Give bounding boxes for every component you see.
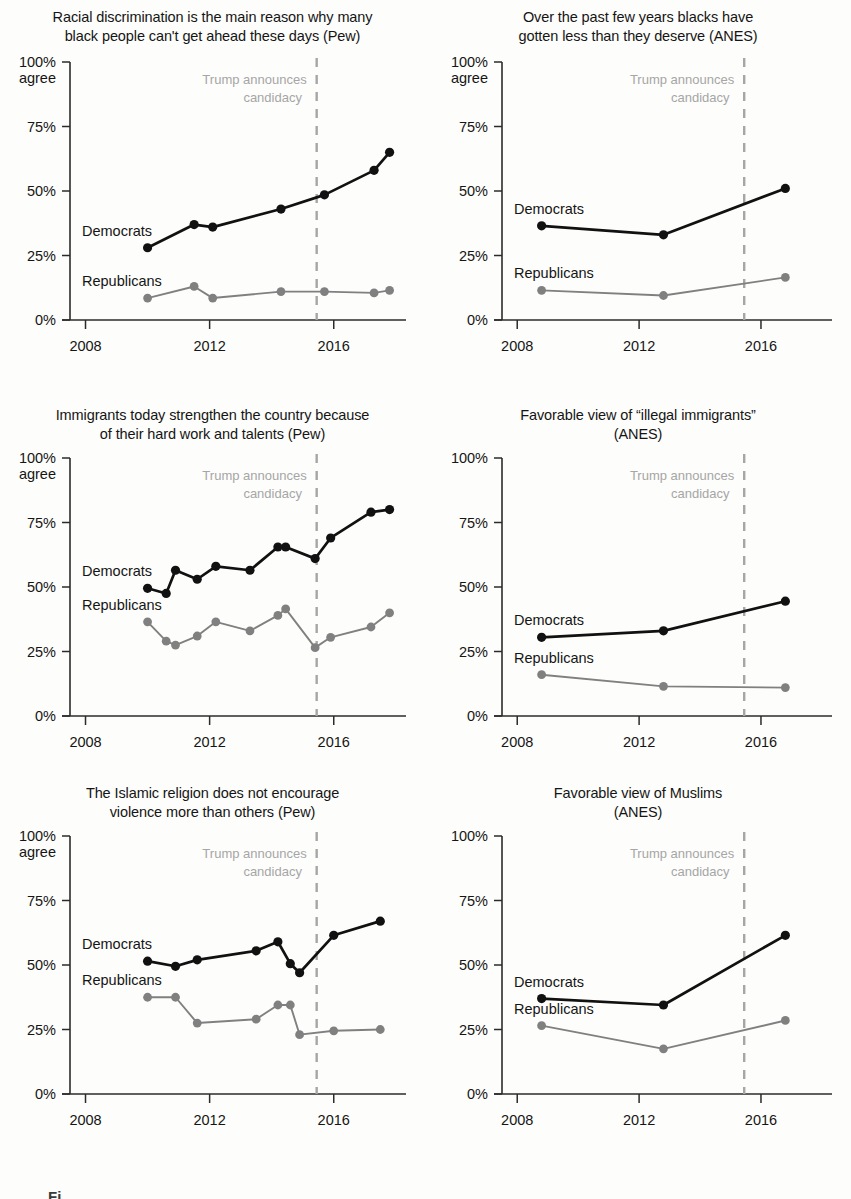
data-point (320, 287, 329, 296)
x-tick-label: 2012 (193, 1112, 225, 1128)
y-tick-label: 25% (459, 1022, 488, 1038)
data-point (329, 931, 338, 940)
data-point (171, 962, 180, 971)
annotation-line1: Trump announces (202, 846, 307, 861)
data-point (273, 937, 282, 946)
x-tick-label: 2016 (745, 338, 777, 354)
chart-plot: 100%75%50%25%0%agree200820122016Trump an… (0, 774, 425, 1193)
annotation-line2: candidacy (243, 90, 302, 105)
data-point (367, 623, 376, 632)
annotation-line1: Trump announces (630, 846, 735, 861)
data-point (659, 682, 668, 691)
data-point (246, 626, 255, 635)
legend-label-democrats: Democrats (82, 563, 152, 579)
y-tick-label: 100% (19, 828, 56, 844)
y-tick-label: 50% (27, 957, 56, 973)
x-tick-label: 2012 (623, 734, 655, 750)
y-tick-label: 100% (451, 828, 488, 844)
series-republicans (537, 670, 790, 692)
data-point (162, 589, 171, 598)
series-republicans (143, 605, 394, 653)
y-tick-label: 25% (459, 644, 488, 660)
data-point (286, 959, 295, 968)
data-point (366, 508, 375, 517)
panel-favorable-illegal-immigrants: Favorable view of “illegal immigrants”(A… (425, 396, 851, 774)
y-tick-label: 75% (27, 893, 56, 909)
series-democrats (143, 917, 385, 978)
series-democrats (143, 505, 394, 598)
annotation-line2: candidacy (671, 90, 730, 105)
x-tick-label: 2012 (193, 338, 225, 354)
legend-label-republicans: Republicans (82, 972, 162, 988)
x-tick-label: 2016 (318, 1112, 350, 1128)
data-point (193, 1019, 202, 1028)
data-point (190, 282, 199, 291)
data-point (311, 643, 320, 652)
panel-favorable-muslims: Favorable view of Muslims(ANES)100%75%50… (425, 774, 851, 1193)
data-point (311, 554, 320, 563)
legend-label-republicans: Republicans (82, 273, 162, 289)
data-point (245, 566, 254, 575)
data-point (781, 597, 790, 606)
data-point (143, 617, 152, 626)
legend-label-republicans: Republicans (514, 650, 594, 666)
data-point (326, 633, 335, 642)
y-tick-label: 0% (35, 312, 56, 328)
data-point (376, 1025, 385, 1034)
annotation-line2: candidacy (671, 864, 730, 879)
y-tick-label: 100% (451, 450, 488, 466)
data-point (273, 611, 282, 620)
data-point (781, 931, 790, 940)
chart-plot: 100%75%50%25%0%agree200820122016Trump an… (0, 396, 425, 774)
data-point (781, 273, 790, 282)
data-point (208, 294, 217, 303)
series-republicans (143, 282, 394, 302)
data-point (143, 243, 152, 252)
data-point (208, 223, 217, 232)
annotation-line1: Trump announces (630, 468, 735, 483)
data-point (659, 1000, 668, 1009)
y-tick-label: 0% (467, 312, 488, 328)
y-tick-label: 50% (27, 183, 56, 199)
x-tick-label: 2016 (745, 734, 777, 750)
data-point (281, 605, 290, 614)
data-point (273, 1001, 282, 1010)
panel-immigrants-strengthen: Immigrants today strengthen the country … (0, 396, 425, 774)
y-tick-label: 100% (19, 54, 56, 70)
y-tick-label: 75% (27, 515, 56, 531)
chart-plot: 100%75%50%25%0%200820122016Trump announc… (425, 774, 851, 1193)
data-point (326, 533, 335, 542)
data-point (143, 294, 152, 303)
x-tick-label: 2008 (501, 1112, 533, 1128)
y-axis-caption: agree (451, 70, 488, 86)
annotation-line2: candidacy (243, 864, 302, 879)
annotation-line2: candidacy (671, 486, 730, 501)
y-tick-label: 25% (459, 248, 488, 264)
data-point (537, 1021, 546, 1030)
annotation-line2: candidacy (243, 486, 302, 501)
data-point (277, 287, 286, 296)
data-point (252, 1015, 261, 1024)
data-point (193, 632, 202, 641)
y-tick-label: 100% (451, 54, 488, 70)
series-republicans (143, 993, 385, 1039)
legend-label-democrats: Democrats (82, 223, 152, 239)
figure-caption-stub: Fi (48, 1189, 61, 1199)
panel-blacks-less-than-deserve: Over the past few years blacks havegotte… (425, 0, 851, 396)
data-point (295, 968, 304, 977)
y-tick-label: 50% (459, 957, 488, 973)
y-axis-caption: agree (19, 844, 56, 860)
data-point (537, 670, 546, 679)
legend-label-democrats: Democrats (514, 201, 584, 217)
data-point (659, 291, 668, 300)
legend-label-democrats: Democrats (82, 936, 152, 952)
x-tick-label: 2008 (501, 734, 533, 750)
y-tick-label: 75% (27, 119, 56, 135)
panel-racial-discrimination: Racial discrimination is the main reason… (0, 0, 425, 396)
data-point (143, 993, 152, 1002)
x-tick-label: 2016 (318, 338, 350, 354)
data-point (143, 584, 152, 593)
y-tick-label: 25% (27, 1022, 56, 1038)
data-point (385, 286, 394, 295)
legend-label-republicans: Republicans (82, 597, 162, 613)
